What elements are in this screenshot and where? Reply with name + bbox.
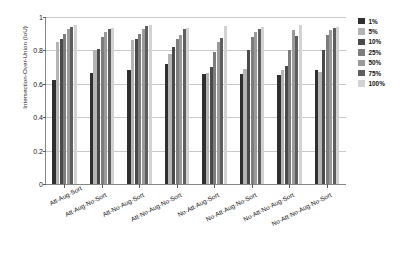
x-tick-mark xyxy=(289,184,290,188)
y-tick-label: 0 xyxy=(39,181,43,188)
legend-swatch xyxy=(358,18,365,25)
bar xyxy=(336,27,339,184)
bar xyxy=(186,28,189,184)
legend-label: 1% xyxy=(369,18,378,25)
legend-swatch xyxy=(358,28,365,35)
y-tick-label: 0.6 xyxy=(33,80,43,87)
x-axis-label: Att-Aug-Sort xyxy=(48,191,70,207)
chart-figure: Intersection-Over-Union (IoU) 00.20.40.6… xyxy=(0,0,413,254)
legend-item: 100% xyxy=(358,78,410,88)
x-tick-mark xyxy=(327,184,328,188)
legend-label: 25% xyxy=(369,49,382,56)
legend-item: 5% xyxy=(358,26,410,36)
x-axis-label: No-Att-No-Aug-Sort xyxy=(73,191,295,254)
bar-group xyxy=(52,17,77,184)
legend-label: 10% xyxy=(369,38,382,45)
bar xyxy=(224,26,227,184)
x-tick-mark xyxy=(214,184,215,188)
bar-group xyxy=(202,17,227,184)
x-tick-mark xyxy=(252,184,253,188)
y-tick-label: 0.2 xyxy=(33,147,43,154)
x-tick-mark xyxy=(102,184,103,188)
legend-swatch xyxy=(358,60,365,67)
bar xyxy=(74,25,77,184)
legend-swatch xyxy=(358,70,365,77)
bar-group xyxy=(127,17,152,184)
y-tick-label: 0.8 xyxy=(33,47,43,54)
legend-item: 25% xyxy=(358,47,410,57)
bar-group xyxy=(277,17,302,184)
y-tick-label: 1 xyxy=(39,14,43,21)
y-tick-label: 0.4 xyxy=(33,114,43,121)
y-tick-mark xyxy=(43,184,46,185)
bar xyxy=(149,25,152,184)
bar xyxy=(299,25,302,184)
legend-item: 1% xyxy=(358,16,410,26)
legend-item: 10% xyxy=(358,37,410,47)
legend-label: 50% xyxy=(369,59,382,66)
legend-label: 75% xyxy=(369,70,382,77)
legend-label: 5% xyxy=(369,28,378,35)
legend-label: 100% xyxy=(369,80,385,87)
legend-swatch xyxy=(358,80,365,87)
legend-swatch xyxy=(358,39,365,46)
x-tick-mark xyxy=(64,184,65,188)
legend: 1%5%10%25%50%75%100% xyxy=(358,16,410,89)
bar-group xyxy=(165,17,190,184)
y-axis-title: Intersection-Over-Union (IoU) xyxy=(21,0,28,158)
bar xyxy=(261,27,264,184)
bar-group xyxy=(315,17,340,184)
legend-item: 75% xyxy=(358,68,410,78)
plot-area: 00.20.40.60.81 Att-Aug-SortAtt-Aug-No-So… xyxy=(45,17,346,185)
bar-group xyxy=(90,17,115,184)
legend-item: 50% xyxy=(358,58,410,68)
bar-groups xyxy=(46,17,346,184)
bar xyxy=(111,28,114,184)
legend-swatch xyxy=(358,49,365,56)
x-tick-mark xyxy=(177,184,178,188)
bar-group xyxy=(240,17,265,184)
x-tick-mark xyxy=(139,184,140,188)
